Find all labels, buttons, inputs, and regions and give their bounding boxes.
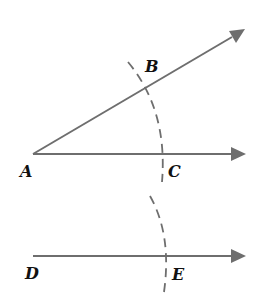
label-a: A [18, 162, 32, 181]
ray-ac [33, 147, 246, 161]
label-c: C [168, 162, 181, 181]
arc-e-dashed [150, 196, 166, 292]
ray-ab-arrowhead-icon [229, 29, 245, 43]
ray-de [33, 249, 246, 263]
ray-ab [33, 29, 245, 154]
ray-de-arrowhead-icon [231, 249, 246, 263]
label-b: B [144, 57, 159, 76]
ray-ab-line [33, 37, 232, 154]
label-d: D [24, 264, 39, 283]
label-e: E [171, 265, 185, 284]
ray-ac-arrowhead-icon [231, 147, 246, 161]
angle-construction-diagram: B A C D E [0, 0, 265, 305]
